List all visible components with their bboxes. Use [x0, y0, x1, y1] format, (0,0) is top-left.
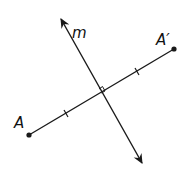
- reflection-diagram: m A′ A: [0, 0, 189, 173]
- point-a-prime: [171, 46, 176, 51]
- point-a: [26, 132, 31, 137]
- label-point-a-prime: A′: [156, 33, 170, 48]
- diagram-svg: [0, 0, 189, 173]
- label-line-m: m: [72, 26, 87, 41]
- label-point-a: A: [14, 116, 24, 131]
